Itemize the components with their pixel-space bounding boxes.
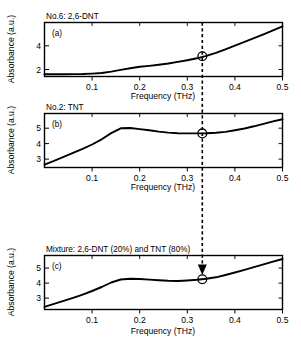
panel-c-xtick-label-04: 0.4 xyxy=(229,315,241,325)
panel-c-yaxis-label: Absorbance (a.u.) xyxy=(6,248,16,316)
panel-c-ytick-label-4: 4 xyxy=(36,278,41,288)
panel-a-xtick-label-04: 0.4 xyxy=(229,82,241,92)
panel-b-xtick-label-05: 0.5 xyxy=(277,173,289,183)
panel-a-label: (a) xyxy=(52,29,62,38)
panel-a-yaxis-label: Absorbance (a.u.) xyxy=(6,15,16,83)
panel-b-ytick-label-5: 5 xyxy=(36,123,41,133)
panel-b-xaxis-label: Frequency (THz) xyxy=(131,182,196,192)
panel-c-ytick-label-5: 5 xyxy=(36,263,41,273)
panel-a-frame xyxy=(45,23,283,77)
guide-arrowhead-icon xyxy=(198,265,207,276)
panel-a-curve xyxy=(45,26,283,74)
panel-b-frame xyxy=(45,114,283,168)
panel-b-ytick-label-3: 3 xyxy=(36,154,41,164)
panel-c-label: (c) xyxy=(52,262,62,271)
panel-c-xtick-label-05: 0.5 xyxy=(277,315,289,325)
panel-c-xaxis-label: Frequency (THz) xyxy=(131,326,196,336)
panel-c: Mixture: 2,6-DNT (20%) and TNT (80%) (c)… xyxy=(6,245,289,336)
panel-c-xtick-label-02: 0.2 xyxy=(134,315,146,325)
terahertz-absorbance-figure: No.6: 2,6-DNT (a) 4 2 0.1 0.2 0.3 xyxy=(0,0,301,347)
panel-b-title: No.2: TNT xyxy=(46,103,84,112)
panel-b-ytick-label-4: 4 xyxy=(36,139,41,149)
panel-a-xtick-label-01: 0.1 xyxy=(86,82,98,92)
panel-a-ytick-label-2: 2 xyxy=(36,65,41,75)
panel-b-curve xyxy=(45,119,283,164)
panel-a-xaxis-label: Frequency (THz) xyxy=(131,91,196,101)
panel-c-frame xyxy=(45,256,283,310)
panel-a-xtick-label-05: 0.5 xyxy=(277,82,289,92)
panel-b: No.2: TNT (b) 5 4 3 0.1 0.2 0.3 xyxy=(6,103,289,192)
panel-a-title: No.6: 2,6-DNT xyxy=(46,12,99,21)
figure-canvas: No.6: 2,6-DNT (a) 4 2 0.1 0.2 0.3 xyxy=(0,0,301,347)
panel-c-xtick-label-03: 0.3 xyxy=(181,315,193,325)
panel-b-yaxis-label: Absorbance (a.u.) xyxy=(6,106,16,174)
panel-b-xtick-label-01: 0.1 xyxy=(86,173,98,183)
panel-a-ytick-label-4: 4 xyxy=(36,41,41,51)
panel-c-xtick-label-01: 0.1 xyxy=(86,315,98,325)
panel-b-label: (b) xyxy=(52,120,62,129)
panel-c-curve xyxy=(45,259,283,307)
panel-b-xtick-label-04: 0.4 xyxy=(229,173,241,183)
panel-a: No.6: 2,6-DNT (a) 4 2 0.1 0.2 0.3 xyxy=(6,12,289,101)
panel-c-title: Mixture: 2,6-DNT (20%) and TNT (80%) xyxy=(46,245,191,254)
guide-annotation xyxy=(198,23,207,276)
panel-c-ytick-label-3: 3 xyxy=(36,293,41,303)
